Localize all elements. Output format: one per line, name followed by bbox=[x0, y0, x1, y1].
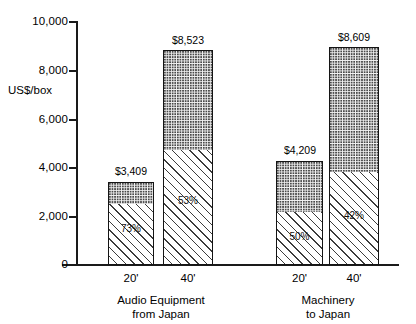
bar-value-label: $8,609 bbox=[314, 32, 394, 43]
x-tick-label-machinery-20ft: 20' bbox=[276, 272, 323, 284]
bar-percent-label: 42% bbox=[329, 211, 379, 221]
y-tick-label-0: 0 bbox=[0, 259, 68, 271]
y-tick-mark-2000 bbox=[69, 216, 76, 218]
bar-segment-upper bbox=[277, 162, 322, 214]
y-tick-label-4000: 4,000 bbox=[0, 162, 68, 174]
y-tick-label-6000: 6,000 bbox=[0, 114, 68, 126]
bar-machinery-40ft[interactable] bbox=[329, 47, 379, 265]
bar-machinery-20ft[interactable] bbox=[276, 161, 323, 265]
x-tick-label-audio-40ft: 40' bbox=[163, 272, 213, 284]
group-caption-line1: Machinery bbox=[255, 294, 401, 308]
group-caption-audio: Audio Equipment from Japan bbox=[88, 294, 234, 321]
bar-audio-40ft[interactable] bbox=[163, 50, 213, 265]
group-caption-machinery: Machinery to Japan bbox=[255, 294, 401, 321]
group-caption-line2: from Japan bbox=[88, 308, 234, 322]
bar-segment-upper bbox=[164, 51, 212, 152]
x-tick-label-audio-20ft: 20' bbox=[108, 272, 154, 284]
bar-percent-label: 50% bbox=[276, 232, 323, 242]
group-caption-line1: Audio Equipment bbox=[88, 294, 234, 308]
y-tick-mark-4000 bbox=[69, 167, 76, 169]
bar-value-label: $4,209 bbox=[260, 145, 340, 156]
y-axis-title: US$/box bbox=[8, 84, 52, 96]
bar-segment-upper bbox=[330, 48, 378, 174]
bar-percent-label: 73% bbox=[108, 224, 154, 234]
bar-value-label: $8,523 bbox=[148, 35, 228, 46]
y-tick-label-10000: 10,000 bbox=[0, 16, 68, 28]
x-tick-label-machinery-40ft: 40' bbox=[329, 272, 379, 284]
bar-segment-upper bbox=[109, 183, 153, 206]
y-tick-mark-6000 bbox=[69, 119, 76, 121]
y-tick-mark-8000 bbox=[69, 70, 76, 72]
bar-chart: US$/box 10,000 8,000 6,000 4,000 2,000 0… bbox=[0, 0, 416, 324]
bar-percent-label: 53% bbox=[163, 196, 213, 206]
bar-value-label: $3,409 bbox=[91, 166, 171, 177]
y-axis-line bbox=[76, 21, 78, 266]
y-tick-mark-10000 bbox=[69, 21, 76, 23]
group-caption-line2: to Japan bbox=[255, 308, 401, 322]
y-tick-label-8000: 8,000 bbox=[0, 65, 68, 77]
bar-segment-lower bbox=[164, 150, 212, 264]
bar-segment-lower bbox=[109, 204, 153, 264]
y-tick-label-2000: 2,000 bbox=[0, 211, 68, 223]
